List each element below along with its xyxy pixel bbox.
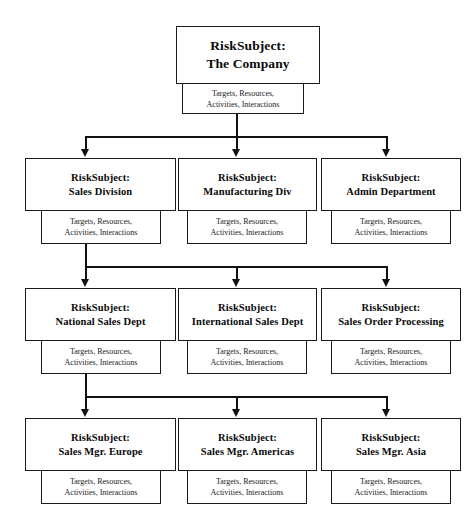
node-prefix: RiskSubject: <box>71 171 130 185</box>
node-national-sales-dept[interactable]: RiskSubject: National Sales Dept Targets… <box>25 288 176 374</box>
node-name: Sales Division <box>69 185 133 199</box>
connector-arrow-l3-col3 <box>382 279 390 287</box>
subtitle-line-2: Activities, Interactions <box>211 357 284 368</box>
subtitle-line-1: Targets, Resources, <box>216 216 278 227</box>
node-prefix: RiskSubject: <box>362 171 421 185</box>
node-manufacturing-div[interactable]: RiskSubject: Manufacturing Div Targets, … <box>178 158 317 244</box>
subtitle-line-2: Activities, Interactions <box>211 227 284 238</box>
subtitle-line-1: Targets, Resources, <box>70 346 132 357</box>
node-sales-mgr-americas[interactable]: RiskSubject: Sales Mgr. Americas Targets… <box>178 418 317 504</box>
node-name: International Sales Dept <box>192 315 304 329</box>
node-sales-mgr-europe[interactable]: RiskSubject: Sales Mgr. Europe Targets, … <box>25 418 176 504</box>
node-name: Manufacturing Div <box>203 185 291 199</box>
node-title-the-company: RiskSubject: The Company <box>176 26 320 84</box>
node-subtitle-admin-department: Targets, Resources, Activities, Interact… <box>331 210 451 244</box>
node-the-company[interactable]: RiskSubject: The Company Targets, Resour… <box>176 26 320 114</box>
subtitle-line-1: Targets, Resources, <box>70 476 132 487</box>
subtitle-line-2: Activities, Interactions <box>65 357 138 368</box>
connector-arrow-l4-col3 <box>382 409 390 417</box>
connector-drop-l4-col3 <box>386 396 388 410</box>
node-subtitle-international-sales-dept: Targets, Resources, Activities, Interact… <box>187 340 307 374</box>
node-subtitle-manufacturing-div: Targets, Resources, Activities, Interact… <box>187 210 307 244</box>
node-title-sales-division: RiskSubject: Sales Division <box>25 158 176 211</box>
node-name: National Sales Dept <box>56 315 146 329</box>
connector-arrow-l2-col1 <box>81 149 89 157</box>
subtitle-line-2: Activities, Interactions <box>355 357 428 368</box>
node-prefix: RiskSubject: <box>218 171 277 185</box>
subtitle-line-1: Targets, Resources, <box>360 346 422 357</box>
subtitle-line-2: Activities, Interactions <box>65 227 138 238</box>
node-prefix: RiskSubject: <box>210 37 285 55</box>
connector-stem-l3 <box>85 374 87 397</box>
subtitle-line-1: Targets, Resources, <box>216 346 278 357</box>
connector-drop-l3-col1 <box>85 266 87 280</box>
node-title-sales-mgr-asia: RiskSubject: Sales Mgr. Asia <box>321 418 461 471</box>
node-name: Sales Mgr. Americas <box>201 445 294 459</box>
node-prefix: RiskSubject: <box>362 431 421 445</box>
node-prefix: RiskSubject: <box>362 301 421 315</box>
node-subtitle-sales-division: Targets, Resources, Activities, Interact… <box>41 210 161 244</box>
node-sales-mgr-asia[interactable]: RiskSubject: Sales Mgr. Asia Targets, Re… <box>321 418 461 504</box>
connector-stem-l2 <box>85 244 87 267</box>
connector-drop-l3-col2 <box>236 266 238 280</box>
node-subtitle-national-sales-dept: Targets, Resources, Activities, Interact… <box>41 340 161 374</box>
node-name: Admin Department <box>346 185 435 199</box>
node-title-manufacturing-div: RiskSubject: Manufacturing Div <box>178 158 317 211</box>
connector-arrow-l2-col2 <box>232 149 240 157</box>
node-title-national-sales-dept: RiskSubject: National Sales Dept <box>25 288 176 341</box>
subtitle-line-2: Activities, Interactions <box>355 227 428 238</box>
node-sales-division[interactable]: RiskSubject: Sales Division Targets, Res… <box>25 158 176 244</box>
node-subtitle-sales-mgr-europe: Targets, Resources, Activities, Interact… <box>41 470 161 504</box>
connector-arrow-l3-col1 <box>81 279 89 287</box>
node-title-sales-mgr-americas: RiskSubject: Sales Mgr. Americas <box>178 418 317 471</box>
subtitle-line-2: Activities, Interactions <box>211 487 284 498</box>
node-name: Sales Order Processing <box>338 315 444 329</box>
node-title-sales-mgr-europe: RiskSubject: Sales Mgr. Europe <box>25 418 176 471</box>
connector-arrow-l2-col3 <box>382 149 390 157</box>
subtitle-line-1: Targets, Resources, <box>216 476 278 487</box>
subtitle-line-2: Activities, Interactions <box>65 487 138 498</box>
node-subtitle-sales-mgr-asia: Targets, Resources, Activities, Interact… <box>331 470 451 504</box>
connector-stem-l1 <box>236 114 238 137</box>
connector-drop-l2-col3 <box>386 136 388 150</box>
node-prefix: RiskSubject: <box>71 431 130 445</box>
node-title-sales-order-processing: RiskSubject: Sales Order Processing <box>321 288 461 341</box>
node-subtitle-sales-mgr-americas: Targets, Resources, Activities, Interact… <box>187 470 307 504</box>
subtitle-line-1: Targets, Resources, <box>360 476 422 487</box>
node-name: The Company <box>206 55 289 73</box>
subtitle-line-2: Activities, Interactions <box>207 99 280 110</box>
connector-drop-l2-col1 <box>85 136 87 150</box>
connector-drop-l2-col2 <box>236 136 238 150</box>
org-chart-diagram: RiskSubject: The Company Targets, Resour… <box>0 0 475 532</box>
connector-arrow-l3-col2 <box>232 279 240 287</box>
node-subtitle-the-company: Targets, Resources, Activities, Interact… <box>182 83 304 114</box>
subtitle-line-2: Activities, Interactions <box>355 487 428 498</box>
connector-drop-l4-col1 <box>85 396 87 410</box>
subtitle-line-1: Targets, Resources, <box>212 88 274 99</box>
connector-drop-l3-col3 <box>386 266 388 280</box>
node-prefix: RiskSubject: <box>218 431 277 445</box>
connector-arrow-l4-col1 <box>81 409 89 417</box>
node-title-international-sales-dept: RiskSubject: International Sales Dept <box>178 288 317 341</box>
connector-drop-l4-col2 <box>236 396 238 410</box>
node-international-sales-dept[interactable]: RiskSubject: International Sales Dept Ta… <box>178 288 317 374</box>
node-prefix: RiskSubject: <box>218 301 277 315</box>
subtitle-line-1: Targets, Resources, <box>360 216 422 227</box>
connector-arrow-l4-col2 <box>232 409 240 417</box>
node-subtitle-sales-order-processing: Targets, Resources, Activities, Interact… <box>331 340 451 374</box>
node-name: Sales Mgr. Asia <box>356 445 426 459</box>
subtitle-line-1: Targets, Resources, <box>70 216 132 227</box>
node-prefix: RiskSubject: <box>71 301 130 315</box>
node-admin-department[interactable]: RiskSubject: Admin Department Targets, R… <box>321 158 461 244</box>
node-title-admin-department: RiskSubject: Admin Department <box>321 158 461 211</box>
node-name: Sales Mgr. Europe <box>58 445 142 459</box>
node-sales-order-processing[interactable]: RiskSubject: Sales Order Processing Targ… <box>321 288 461 374</box>
